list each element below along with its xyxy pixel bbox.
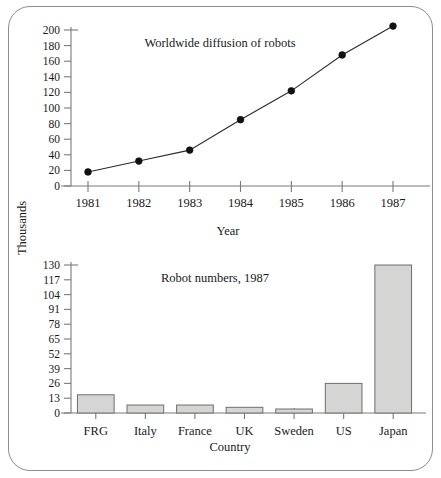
- bar-chart-svg: 013263952657891104117130FRGItalyFranceUK…: [0, 244, 441, 478]
- bar-chart-x-tick-label: UK: [235, 424, 253, 438]
- line-chart-y-tick-label: 40: [49, 149, 61, 161]
- line-chart-y-tick-label: 160: [43, 55, 61, 67]
- bar-chart-bar: [375, 265, 412, 413]
- bar-chart-bar: [226, 407, 263, 413]
- line-chart-y-tick-label: 140: [43, 71, 61, 83]
- line-chart-x-axis-title: Year: [216, 224, 240, 238]
- figure-container: 0204060801001201401601802001981198219831…: [0, 0, 441, 478]
- line-chart-x-tick-label: 1982: [126, 196, 151, 210]
- bar-chart-title: Robot numbers, 1987: [161, 271, 269, 285]
- line-chart-data-point: [186, 147, 193, 154]
- line-chart-data-point: [339, 52, 346, 59]
- line-chart-title: Worldwide diffusion of robots: [144, 36, 295, 50]
- line-chart-y-tick-label: 200: [43, 24, 61, 36]
- bar-chart-y-tick-label: 65: [49, 333, 61, 345]
- line-chart-y-tick-label: 60: [49, 133, 61, 145]
- bar-chart-x-tick-label: Italy: [134, 424, 158, 438]
- line-chart-y-tick-label: 120: [43, 86, 61, 98]
- bar-chart-bar: [325, 383, 362, 413]
- bar-chart-y-tick-label: 117: [43, 274, 60, 286]
- bar-chart-y-tick-label: 104: [43, 289, 61, 301]
- bar-chart-x-tick-label: US: [336, 424, 352, 438]
- line-chart-x-tick-label: 1984: [228, 196, 254, 210]
- line-chart-data-point: [390, 23, 397, 30]
- line-chart-data-point: [237, 116, 244, 123]
- bar-chart-y-tick-label: 39: [49, 363, 61, 375]
- bar-chart-y-tick-label: 91: [49, 303, 61, 315]
- line-chart-panel: 0204060801001201401601802001981198219831…: [0, 0, 441, 248]
- line-chart-data-point: [135, 158, 142, 165]
- bar-chart-x-axis-title: Country: [210, 440, 252, 454]
- bar-chart-y-tick-label: 78: [49, 318, 61, 330]
- bar-chart-bar: [77, 395, 114, 413]
- bar-chart-y-tick-label: 52: [49, 348, 61, 360]
- bar-chart-bar: [127, 405, 164, 413]
- line-chart-y-tick-label: 80: [49, 118, 61, 130]
- bar-chart-y-tick-label: 13: [49, 392, 61, 404]
- bar-chart-y-tick-label: 130: [43, 259, 61, 271]
- line-chart-data-point: [288, 87, 295, 94]
- line-chart-x-tick-label: 1987: [381, 196, 406, 210]
- line-chart-y-tick-label: 20: [49, 164, 61, 176]
- bar-chart-y-tick-label: 0: [54, 407, 60, 419]
- line-chart-x-tick-label: 1983: [177, 196, 202, 210]
- bar-chart-y-tick-label: 26: [49, 377, 61, 389]
- bar-chart-x-tick-label: France: [178, 424, 212, 438]
- line-chart-svg: 0204060801001201401601802001981198219831…: [0, 0, 441, 248]
- line-chart-data-point: [85, 169, 92, 176]
- line-chart-y-tick-label: 180: [43, 40, 61, 52]
- line-chart-y-tick-label: 0: [54, 180, 60, 192]
- bar-chart-x-tick-label: Sweden: [274, 424, 314, 438]
- line-chart-x-tick-label: 1981: [76, 196, 101, 210]
- bar-chart-panel: 013263952657891104117130FRGItalyFranceUK…: [0, 244, 441, 478]
- line-chart-x-tick-label: 1986: [330, 196, 355, 210]
- line-chart-x-tick-label: 1985: [279, 196, 304, 210]
- bar-chart-bar: [276, 409, 313, 413]
- bar-chart-x-tick-label: FRG: [84, 424, 108, 438]
- bar-chart-x-tick-label: Japan: [379, 424, 408, 438]
- line-chart-y-tick-label: 100: [43, 102, 61, 114]
- bar-chart-bar: [177, 405, 214, 413]
